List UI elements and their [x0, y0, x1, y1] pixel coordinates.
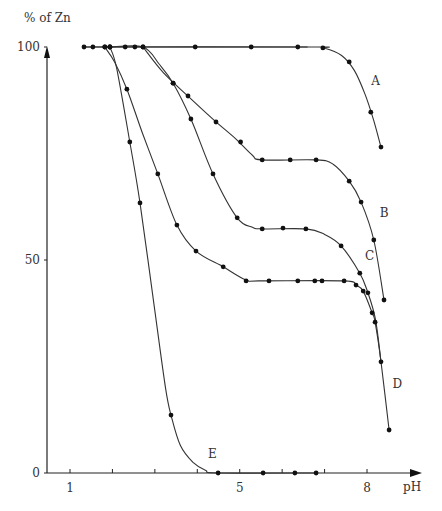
- axes: % of Zn pH: [24, 11, 422, 494]
- data-point-d: [295, 279, 300, 284]
- data-point-d: [387, 428, 392, 433]
- data-point-a: [295, 45, 300, 50]
- curve-label-b: B: [380, 206, 389, 220]
- data-point-d: [155, 172, 160, 177]
- data-point-b: [141, 45, 146, 50]
- data-point-a: [368, 110, 373, 115]
- curve-e: [110, 47, 316, 473]
- curve-c: [110, 46, 381, 362]
- data-point-e: [169, 413, 174, 418]
- data-point-a: [321, 46, 326, 51]
- data-point-a: [249, 45, 254, 50]
- curve-label-c: C: [365, 249, 374, 263]
- x-axis-arrow-icon: [410, 469, 422, 477]
- data-point-b: [288, 158, 293, 163]
- data-point-d: [125, 87, 130, 92]
- x-tick-label: 8: [363, 481, 371, 495]
- data-point-b: [238, 140, 243, 145]
- data-points: [82, 45, 392, 476]
- data-point-a: [347, 60, 352, 65]
- y-axis-label: % of Zn: [24, 11, 71, 25]
- data-point-c: [304, 227, 309, 232]
- data-point-a: [123, 45, 128, 50]
- curve-d: [105, 47, 389, 430]
- data-point-e: [314, 471, 319, 476]
- curve-label-e: E: [208, 447, 217, 461]
- data-point-d: [342, 279, 347, 284]
- data-point-e: [108, 45, 113, 50]
- x-tick-label: 1: [66, 481, 74, 495]
- data-point-d: [373, 320, 378, 325]
- data-point-b: [382, 298, 387, 303]
- data-point-b: [359, 200, 364, 205]
- data-point-a: [193, 45, 198, 50]
- data-point-d: [379, 359, 384, 364]
- data-point-b: [347, 179, 352, 184]
- data-point-a: [82, 45, 87, 50]
- y-tick-label: 100: [17, 40, 40, 54]
- data-point-e: [138, 201, 143, 206]
- data-point-b: [260, 158, 265, 163]
- data-point-d: [221, 264, 226, 269]
- y-tick-label: 50: [25, 253, 40, 267]
- ticks: 158050100: [17, 40, 371, 495]
- data-point-b: [371, 238, 376, 243]
- data-point-c: [260, 227, 265, 232]
- data-point-b: [314, 158, 319, 163]
- data-point-d: [354, 283, 359, 288]
- data-point-d: [194, 249, 199, 254]
- data-point-d: [175, 223, 180, 228]
- data-point-c: [339, 244, 344, 249]
- data-point-c: [189, 117, 194, 122]
- data-point-d: [320, 279, 325, 284]
- curve-labels: ABCDE: [208, 74, 402, 461]
- data-point-e: [216, 471, 221, 476]
- data-point-c: [357, 271, 362, 276]
- data-point-a: [133, 45, 138, 50]
- data-point-a: [379, 145, 384, 150]
- data-point-d: [370, 310, 375, 315]
- data-point-e: [261, 471, 266, 476]
- titration-chart: % of Zn pH 158050100 ABCDE: [0, 0, 442, 511]
- data-point-e: [293, 471, 298, 476]
- curve-label-d: D: [392, 377, 402, 391]
- data-point-a: [91, 45, 96, 50]
- x-tick-label: 5: [236, 481, 244, 495]
- data-point-d: [244, 279, 249, 284]
- data-point-b: [186, 94, 191, 99]
- curves: [84, 46, 389, 473]
- data-point-c: [235, 215, 240, 220]
- data-point-d: [361, 289, 366, 294]
- data-point-c: [171, 81, 176, 86]
- data-point-d: [312, 279, 317, 284]
- data-point-d: [267, 279, 272, 284]
- y-axis-arrow-icon: [44, 46, 50, 58]
- data-point-c: [281, 226, 286, 231]
- data-point-b: [214, 120, 219, 125]
- data-point-e: [127, 140, 132, 145]
- y-tick-label: 0: [32, 466, 40, 480]
- curve-b: [143, 47, 384, 300]
- x-axis-label: pH: [403, 480, 421, 494]
- curve-label-a: A: [370, 74, 380, 88]
- data-point-c: [211, 172, 216, 177]
- data-point-d: [102, 45, 107, 50]
- data-point-c: [366, 290, 371, 295]
